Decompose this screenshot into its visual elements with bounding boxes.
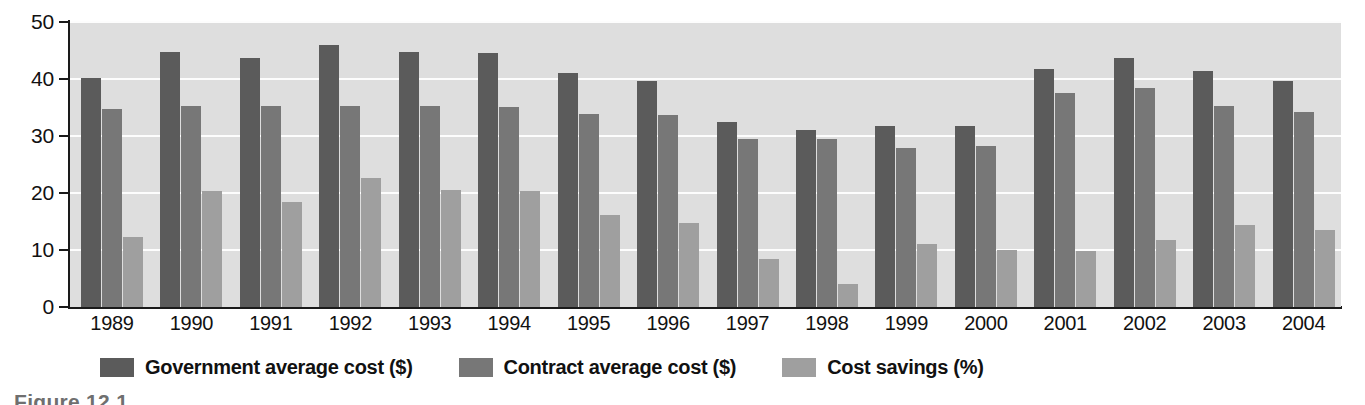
bar — [81, 78, 101, 307]
legend-label: Contract average cost ($) — [504, 356, 737, 379]
legend-label: Cost savings (%) — [827, 356, 983, 379]
bar — [261, 106, 281, 307]
legend-label: Government average cost ($) — [145, 356, 413, 379]
bar — [1135, 88, 1155, 307]
x-axis-label: 1990 — [146, 312, 236, 335]
bar-group — [1273, 22, 1335, 307]
plot-area — [70, 22, 1341, 307]
bar — [1294, 112, 1314, 307]
x-axis-label: 2004 — [1259, 312, 1349, 335]
legend-item: Contract average cost ($) — [459, 356, 737, 379]
bar — [955, 126, 975, 307]
bar — [579, 114, 599, 307]
bar — [160, 52, 180, 307]
bar-group — [1193, 22, 1255, 307]
bar — [1273, 81, 1293, 307]
y-tick-20 — [59, 192, 68, 194]
x-axis-label: 2003 — [1179, 312, 1269, 335]
bar — [658, 115, 678, 307]
y-axis-tick-label: 40 — [31, 68, 54, 89]
x-axis-label: 2000 — [941, 312, 1031, 335]
legend-swatch-government — [100, 358, 134, 377]
bar — [478, 53, 498, 307]
bar-group — [160, 22, 222, 307]
bar — [1214, 106, 1234, 307]
bar-group — [717, 22, 779, 307]
bar — [282, 202, 302, 307]
bar — [181, 106, 201, 307]
y-tick-40 — [59, 78, 68, 80]
bar-group — [558, 22, 620, 307]
bar — [1034, 69, 1054, 307]
bar — [499, 107, 519, 307]
bar — [679, 223, 699, 307]
bar — [441, 190, 461, 307]
bar — [917, 244, 937, 307]
x-axis-label: 2001 — [1020, 312, 1110, 335]
bar — [738, 139, 758, 307]
bar — [875, 126, 895, 307]
legend-item: Cost savings (%) — [782, 356, 983, 379]
bar — [717, 122, 737, 307]
bar — [1055, 93, 1075, 307]
bar — [759, 259, 779, 307]
y-tick-50 — [59, 21, 68, 23]
bar — [1315, 230, 1335, 307]
bar — [997, 250, 1017, 307]
y-axis-tick-label: 50 — [31, 11, 54, 32]
bar-group — [955, 22, 1017, 307]
bar — [796, 130, 816, 307]
x-axis-label: 1996 — [623, 312, 713, 335]
y-axis-tick-label: 20 — [31, 182, 54, 203]
bar — [817, 139, 837, 307]
bar-group — [637, 22, 699, 307]
x-axis-label: 1994 — [464, 312, 554, 335]
y-tick-30 — [59, 135, 68, 137]
bar — [202, 191, 222, 307]
x-axis-label: 1995 — [544, 312, 634, 335]
bar — [240, 58, 260, 307]
x-axis-label: 1999 — [861, 312, 951, 335]
bar — [420, 106, 440, 307]
bar — [976, 146, 996, 307]
y-axis-tick-label: 10 — [31, 239, 54, 260]
bar-group — [796, 22, 858, 307]
bar-chart-figure: 01020304050 1989199019911992199319941995… — [0, 0, 1365, 405]
legend-item: Government average cost ($) — [100, 356, 413, 379]
bar — [1114, 58, 1134, 307]
legend-swatch-contract — [459, 358, 493, 377]
bar-group — [319, 22, 381, 307]
x-axis-label: 1991 — [226, 312, 316, 335]
bar — [1193, 71, 1213, 307]
y-axis-tick-label: 0 — [43, 296, 54, 317]
x-axis-label: 1989 — [67, 312, 157, 335]
bar — [1235, 225, 1255, 307]
bar — [520, 191, 540, 307]
bar — [123, 237, 143, 307]
bar-group — [478, 22, 540, 307]
figure-caption-partial: Figure 12.1 — [14, 390, 128, 405]
bar-group — [875, 22, 937, 307]
bar — [1156, 240, 1176, 307]
bar-group — [1114, 22, 1176, 307]
chart-legend: Government average cost ($)Contract aver… — [100, 356, 1030, 379]
bar — [600, 215, 620, 307]
bar — [558, 73, 578, 307]
bar — [1076, 251, 1096, 307]
x-axis-label: 1997 — [703, 312, 793, 335]
bar-group — [399, 22, 461, 307]
bar — [637, 81, 657, 307]
bar — [340, 106, 360, 307]
legend-swatch-savings — [782, 358, 816, 377]
bar — [102, 109, 122, 307]
y-tick-0 — [59, 306, 68, 308]
x-axis-label: 1992 — [305, 312, 395, 335]
x-axis-label: 1993 — [385, 312, 475, 335]
bar — [838, 284, 858, 307]
y-axis-labels: 01020304050 — [0, 0, 54, 330]
y-axis-tick-label: 30 — [31, 125, 54, 146]
bar-group — [1034, 22, 1096, 307]
bar — [319, 45, 339, 307]
x-axis-label: 2002 — [1100, 312, 1190, 335]
x-axis-label: 1998 — [782, 312, 872, 335]
